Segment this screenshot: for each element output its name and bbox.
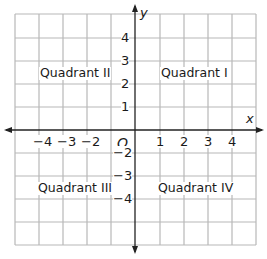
y-tick-1: 1	[121, 100, 129, 113]
y-tick-neg2: −2	[113, 146, 132, 159]
x-tick-neg3: −3	[57, 135, 76, 148]
quadrant-3-label: Quadrant III	[37, 182, 113, 195]
y-axis-arrow-up-icon	[132, 4, 138, 12]
x-tick-3: 3	[204, 135, 212, 148]
x-axis-label: x	[246, 112, 254, 125]
y-tick-3: 3	[121, 54, 129, 67]
x-tick-4: 4	[228, 135, 236, 148]
x-tick-1: 1	[156, 135, 164, 148]
x-tick-neg2: −2	[81, 135, 100, 148]
y-tick-4: 4	[121, 31, 129, 44]
y-tick-2: 2	[121, 77, 129, 90]
x-axis-arrow-left-icon	[4, 127, 12, 133]
quadrant-1-label: Quadrant I	[160, 67, 229, 80]
x-tick-neg4: −4	[33, 135, 52, 148]
coordinate-plane: y x O −4 −3 −2 1 2 3 4 4 3 2 1 −2 −3 −4 …	[0, 0, 267, 259]
y-tick-neg3: −3	[113, 169, 132, 182]
axes	[4, 4, 264, 254]
y-axis-label: y	[140, 6, 148, 19]
grid-svg	[0, 0, 267, 259]
y-axis-arrow-down-icon	[132, 246, 138, 254]
x-tick-2: 2	[180, 135, 188, 148]
y-tick-neg4: −4	[113, 192, 132, 205]
x-axis-arrow-right-icon	[256, 127, 264, 133]
quadrant-4-label: Quadrant IV	[157, 182, 234, 195]
quadrant-2-label: Quadrant II	[39, 67, 111, 80]
